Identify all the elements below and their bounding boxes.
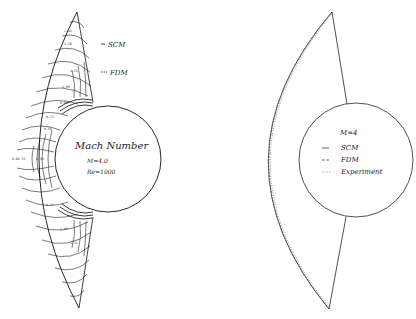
contour-label: 1.31: [70, 241, 78, 245]
mach-annotation: M=4.0: [86, 157, 108, 164]
legend-scm-label: SCM: [108, 41, 126, 49]
upper-outflow-boundary: [77, 12, 93, 102]
contour-label: 1.09: [62, 85, 70, 89]
legend-fdm-label: FDM: [109, 69, 128, 77]
figure-canvas: 1.44 1.38 1.31 1.09 0.88 0.73 0.58 0.86.…: [0, 0, 416, 319]
contour-label: 0.58: [44, 127, 52, 131]
legend-left: SCM FDM: [101, 41, 128, 77]
reynolds-annotation: Re=1000: [86, 168, 116, 175]
contour-label: 0.88: [60, 101, 68, 105]
contour-label: 0.58: [36, 157, 44, 161]
contour-label: 1.31: [70, 69, 78, 73]
contour-label: 0.73: [46, 115, 54, 119]
right-shock-comparison: M=4 SCM FDM Experiment: [268, 12, 413, 309]
contour-label: 0.86.32: [12, 157, 26, 161]
contour-label: 0.73: [46, 203, 54, 207]
left-contour-plot: 1.44 1.38 1.31 1.09 0.88 0.73 0.58 0.86.…: [12, 12, 161, 308]
mach-annotation-right: M=4: [339, 129, 358, 137]
legend-experiment-label: Experiment: [340, 168, 383, 176]
cylinder-body-left: [55, 106, 161, 212]
upper-outflow-boundary-right: [332, 12, 347, 104]
contour-label: 1.38: [64, 42, 72, 46]
legend-fdm-label: FDM: [340, 156, 359, 164]
contour-label: 1.09: [60, 227, 68, 231]
plot-title: Mach Number: [74, 140, 149, 151]
lower-outflow-boundary-right: [329, 217, 346, 309]
legend-scm-label: SCM: [341, 144, 359, 152]
contour-label: 1.44: [64, 29, 72, 33]
